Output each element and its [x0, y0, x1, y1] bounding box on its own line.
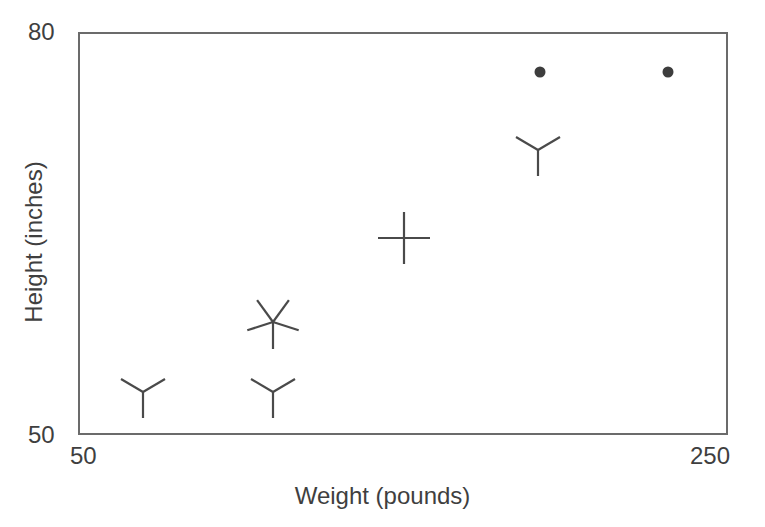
sunflower-marker-4-petal	[378, 212, 430, 264]
single-observation-dot	[663, 67, 674, 78]
y-axis-tick-label-bottom: 50	[28, 423, 55, 447]
sunflower-marker-5-petal	[247, 300, 298, 349]
single-observation-dot	[535, 67, 546, 78]
x-axis-tick-label-left: 50	[70, 444, 97, 468]
sunflower-marker-3-petal	[516, 137, 560, 176]
x-axis-title: Weight (pounds)	[0, 482, 765, 510]
sunflower-scatter-figure: 80 50 50 250 Weight (pounds) Height (inc…	[0, 0, 765, 527]
sunflower-marker-3-petal	[121, 379, 165, 418]
y-axis-title-wrapper: Height (inches)	[20, 112, 48, 372]
data-marker-layer	[78, 32, 728, 435]
y-axis-title: Height (inches)	[20, 161, 47, 322]
x-axis-tick-label-right: 250	[690, 444, 730, 468]
y-axis-tick-label-top: 80	[28, 20, 55, 44]
sunflower-marker-3-petal	[251, 379, 295, 418]
